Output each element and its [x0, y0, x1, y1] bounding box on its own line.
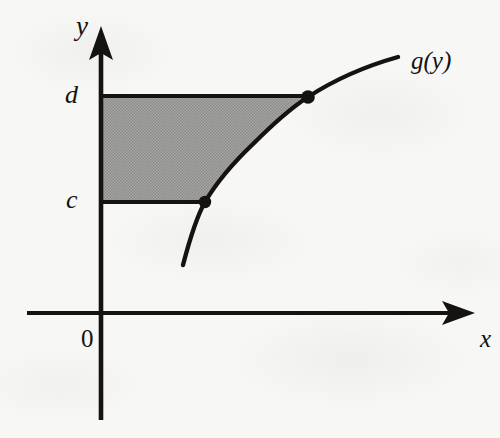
figure-canvas: y x d c 0 g(y) — [0, 0, 500, 438]
point-marker-lower — [199, 196, 211, 208]
y-tick-label-d: d — [65, 82, 78, 108]
shaded-region — [102, 96, 308, 202]
origin-label: 0 — [81, 326, 94, 351]
y-axis-label: y — [76, 13, 88, 40]
point-marker-upper — [301, 90, 315, 104]
curve-label-g-of-y: g(y) — [411, 48, 451, 73]
y-tick-label-c: c — [66, 187, 78, 213]
x-axis-label: x — [480, 326, 491, 351]
